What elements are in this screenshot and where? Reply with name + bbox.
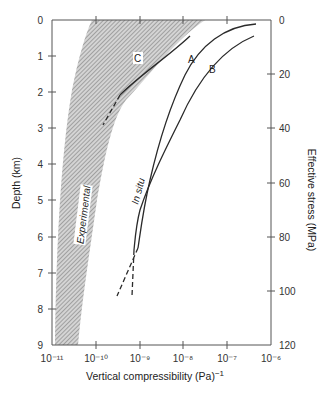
label-in-situ: In situ bbox=[129, 176, 147, 205]
svg-text:5: 5 bbox=[37, 195, 43, 206]
svg-text:8: 8 bbox=[37, 304, 43, 315]
svg-text:7: 7 bbox=[37, 268, 43, 279]
svg-text:0: 0 bbox=[37, 15, 43, 26]
svg-text:3: 3 bbox=[37, 123, 43, 134]
x-tick-labels: 10⁻¹¹ 10⁻¹⁰ 10⁻⁹ 10⁻⁸ 10⁻⁷ 10⁻⁶ bbox=[41, 353, 282, 364]
svg-text:10⁻⁷: 10⁻⁷ bbox=[217, 353, 237, 364]
curve-b bbox=[132, 36, 254, 296]
label-c: C bbox=[134, 53, 141, 64]
svg-text:120: 120 bbox=[279, 340, 296, 351]
svg-text:60: 60 bbox=[279, 178, 291, 189]
svg-text:4: 4 bbox=[37, 159, 43, 170]
svg-text:10⁻⁹: 10⁻⁹ bbox=[130, 353, 150, 364]
svg-text:6: 6 bbox=[37, 232, 43, 243]
svg-text:40: 40 bbox=[279, 123, 291, 134]
y2-axis-title: Effective stress (MPa) bbox=[306, 149, 318, 252]
label-a: A bbox=[188, 54, 195, 65]
svg-text:100: 100 bbox=[279, 286, 296, 297]
y-axis-title: Depth (km) bbox=[10, 157, 22, 209]
svg-text:9: 9 bbox=[37, 340, 43, 351]
svg-text:10⁻¹⁰: 10⁻¹⁰ bbox=[84, 353, 107, 364]
svg-text:20: 20 bbox=[279, 69, 291, 80]
experimental-region bbox=[55, 20, 205, 345]
svg-text:0: 0 bbox=[279, 15, 285, 26]
y-tick-labels-right: 0 20 40 60 80 100 120 bbox=[279, 15, 296, 351]
svg-text:10⁻¹¹: 10⁻¹¹ bbox=[41, 353, 64, 364]
y-tick-labels-left: 0 1 2 3 4 5 6 7 8 9 bbox=[37, 15, 43, 351]
svg-text:10⁻⁸: 10⁻⁸ bbox=[173, 353, 193, 364]
x-axis-title: Vertical compressibility (Pa)−1 bbox=[86, 369, 225, 382]
svg-text:2: 2 bbox=[37, 87, 43, 98]
chart: 0 1 2 3 4 5 6 7 8 9 0 20 40 60 80 100 12… bbox=[0, 0, 327, 394]
svg-text:10⁻⁶: 10⁻⁶ bbox=[261, 353, 281, 364]
svg-text:1: 1 bbox=[37, 51, 43, 62]
svg-text:80: 80 bbox=[279, 232, 291, 243]
label-b: B bbox=[209, 64, 216, 75]
